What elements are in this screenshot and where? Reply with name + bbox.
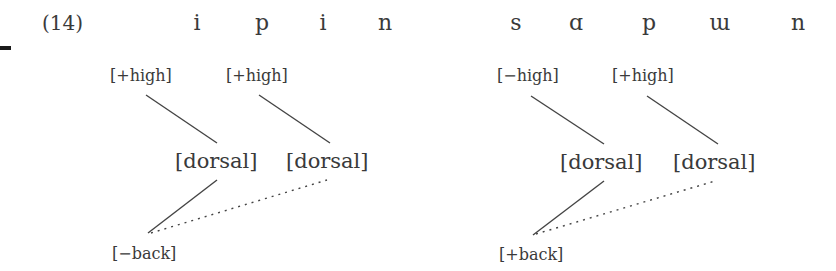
spreading-line-dotted <box>151 180 327 233</box>
association-line <box>146 95 217 143</box>
association-line <box>259 95 330 143</box>
association-line <box>647 96 718 144</box>
association-line <box>533 181 604 235</box>
spreading-line-dotted <box>536 181 715 234</box>
association-line <box>531 96 604 144</box>
association-line <box>148 180 217 233</box>
association-lines <box>0 0 836 271</box>
